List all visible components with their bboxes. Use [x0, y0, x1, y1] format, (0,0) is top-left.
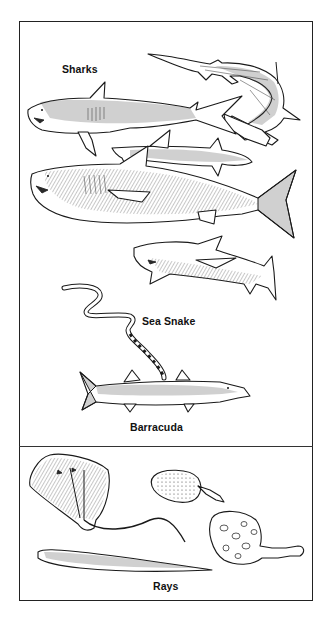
reef-shark-illustration: [134, 236, 276, 300]
stingray-illustration: [30, 454, 185, 542]
hammerhead-shark-illustration: [148, 54, 300, 146]
tiger-shark-illustration: [28, 82, 242, 156]
sawfish-ray-illustration: [38, 550, 212, 572]
sea-snake-illustration: [64, 286, 164, 378]
sea-snake-label: Sea Snake: [142, 315, 195, 327]
electric-ray-illustration: [210, 511, 304, 564]
barracuda-label: Barracuda: [130, 421, 183, 433]
round-stingray-illustration: [151, 470, 224, 502]
sharks-label: Sharks: [62, 63, 98, 75]
rays-label: Rays: [153, 580, 179, 592]
illustration-canvas: [0, 0, 330, 619]
